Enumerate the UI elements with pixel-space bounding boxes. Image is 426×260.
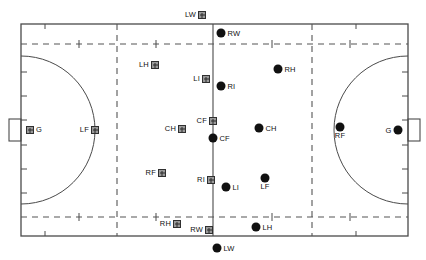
court-tick-marks-group: [21, 24, 408, 236]
handball-court-diagram: LWRWLHLIRIRHCHCFCFCHGLFRFGRFRILILFRHRWLH…: [0, 0, 426, 260]
court-dashed-lines-group: [21, 24, 408, 236]
left-goal: [9, 119, 21, 141]
right-goal: [408, 119, 420, 141]
court-lines-svg: [0, 0, 426, 260]
court-goal-boxes-group: [9, 119, 420, 141]
court-boundary-group: [21, 24, 408, 236]
